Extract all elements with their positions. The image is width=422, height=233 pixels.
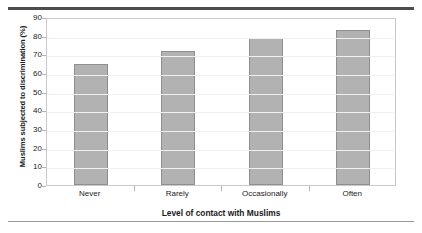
y-axis-tick-mark <box>41 18 46 19</box>
y-axis-tick-mark <box>41 167 46 168</box>
y-axis-tick-label: 60 <box>18 70 42 78</box>
y-axis-tick-mark <box>41 93 46 94</box>
x-axis-title: Level of contact with Muslims <box>46 208 396 218</box>
gridline <box>47 131 395 132</box>
y-axis-tick-label: 40 <box>18 107 42 115</box>
y-axis-tick-label: 90 <box>18 14 42 22</box>
y-axis-tick-label: 20 <box>18 145 42 153</box>
y-axis-tick-mark <box>41 74 46 75</box>
bar <box>336 30 370 185</box>
bar <box>161 51 195 185</box>
y-axis-tick-mark <box>41 186 46 187</box>
y-axis-tick-labels: 0102030405060708090 <box>18 18 42 186</box>
y-axis-tick-label: 70 <box>18 51 42 59</box>
bottom-divider-rule <box>8 221 414 222</box>
x-axis-tick-label: Often <box>297 190 407 198</box>
gridline <box>47 112 395 113</box>
x-axis-tick-mark <box>134 186 135 191</box>
x-axis-tick-labels: NeverRarelyOccasionallyOften <box>46 190 396 204</box>
y-axis-tick-mark <box>41 130 46 131</box>
y-axis-tick-label: 50 <box>18 89 42 97</box>
gridline <box>47 94 395 95</box>
chart-figure: Muslims subjected to discrimination (%) … <box>0 0 422 233</box>
y-axis-tick-label: 80 <box>18 33 42 41</box>
x-axis-tick-mark <box>221 186 222 191</box>
gridline <box>47 56 395 57</box>
gridline <box>47 150 395 151</box>
gridline <box>47 75 395 76</box>
x-axis-tick-mark <box>309 186 310 191</box>
y-axis-tick-mark <box>41 111 46 112</box>
y-axis-tick-mark <box>41 55 46 56</box>
y-axis-tick-label: 10 <box>18 163 42 171</box>
y-axis-tick-label: 0 <box>18 182 42 190</box>
gridline <box>47 168 395 169</box>
gridline <box>47 38 395 39</box>
bar <box>74 64 108 185</box>
bar <box>249 38 283 185</box>
y-axis-tick-label: 30 <box>18 126 42 134</box>
plot-area <box>46 18 396 186</box>
top-divider-rule <box>8 7 414 10</box>
bar-series <box>47 19 395 185</box>
y-axis-tick-mark <box>41 149 46 150</box>
y-axis-tick-mark <box>41 37 46 38</box>
